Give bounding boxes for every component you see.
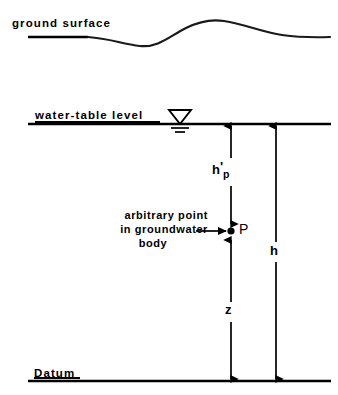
elevation-head-label: z <box>225 303 232 316</box>
point-p-label: P <box>239 222 248 236</box>
water-table-triangle-icon <box>169 110 191 124</box>
datum-label: Datum <box>34 368 75 380</box>
total-head-label: h <box>270 244 278 257</box>
diagram-canvas <box>0 0 338 395</box>
callout-line-2: in groundwater <box>98 222 208 236</box>
callout-line-1: arbitrary point <box>98 208 208 222</box>
point-dot-icon <box>227 227 234 234</box>
ground-surface-curve <box>88 20 330 46</box>
arbitrary-point-callout: arbitrary point in groundwater body <box>98 208 208 250</box>
water-table-level-label: water-table level <box>35 110 143 122</box>
callout-line-3: body <box>98 236 208 250</box>
pressure-head-label: h'p <box>212 160 229 180</box>
pressure-head-base: h <box>212 162 220 177</box>
groundwater-head-diagram: ground surface water-table level Datum h… <box>0 0 338 395</box>
ground-surface-label: ground surface <box>12 18 111 30</box>
pressure-head-subscript: p <box>223 168 229 180</box>
